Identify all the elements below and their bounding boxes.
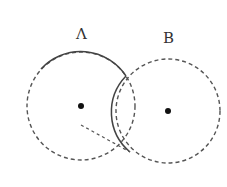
label-b: B xyxy=(163,29,174,47)
circle-b-solid-arc xyxy=(111,76,130,152)
two-circle-diagram: Λ B xyxy=(0,0,227,187)
center-dot-a xyxy=(78,103,84,109)
center-dot-b xyxy=(165,108,171,114)
radius-line-dashed xyxy=(81,125,130,152)
circle-a-solid-arc xyxy=(41,52,126,76)
label-a: Λ xyxy=(75,25,87,43)
